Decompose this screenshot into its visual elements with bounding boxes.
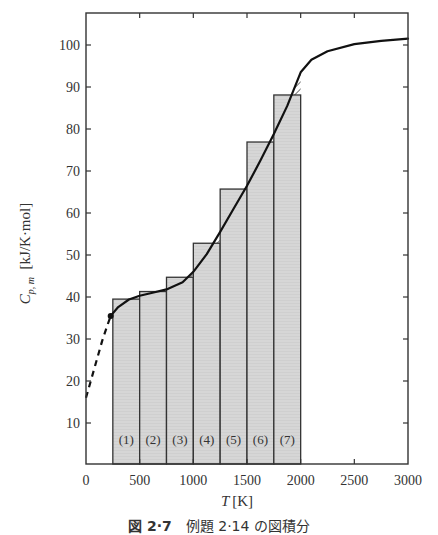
y-axis-title: Cp, m [kJ/K·mol] bbox=[17, 203, 36, 304]
integration-bar bbox=[193, 243, 220, 464]
y-tick-label: 30 bbox=[66, 332, 80, 347]
y-tick-label: 80 bbox=[66, 122, 80, 137]
bar-label: (1) bbox=[119, 432, 134, 447]
y-tick-label: 60 bbox=[66, 206, 80, 221]
integration-bars bbox=[113, 95, 301, 464]
figure-caption: 図 2·7例題 2·14 の図積分 bbox=[0, 515, 438, 535]
bar-label: (6) bbox=[253, 432, 268, 447]
bar-label: (3) bbox=[172, 432, 187, 447]
x-tick-label: 1500 bbox=[233, 473, 261, 488]
chart-figure: 1020304050607080901000500100015002000250… bbox=[0, 0, 438, 510]
integration-bar bbox=[274, 95, 301, 464]
figure-number: 図 2·7 bbox=[128, 518, 172, 534]
integration-bar bbox=[247, 142, 274, 464]
x-tick-label: 1000 bbox=[179, 473, 207, 488]
y-tick-label: 70 bbox=[66, 164, 80, 179]
y-tick-label: 50 bbox=[66, 248, 80, 263]
y-tick-label: 20 bbox=[66, 374, 80, 389]
curve-dashed-extrapolation bbox=[86, 316, 111, 398]
bar-label: (2) bbox=[145, 432, 160, 447]
bar-label: (7) bbox=[280, 432, 295, 447]
integration-bar bbox=[220, 189, 247, 464]
x-tick-label: 2500 bbox=[340, 473, 368, 488]
y-tick-label: 40 bbox=[66, 290, 80, 305]
bar-label: (5) bbox=[226, 432, 241, 447]
bar-label: (4) bbox=[199, 432, 214, 447]
x-tick-label: 500 bbox=[129, 473, 150, 488]
y-tick-label: 90 bbox=[66, 80, 80, 95]
curve-marker-dot bbox=[108, 313, 114, 319]
x-axis-title: T [K] bbox=[221, 493, 253, 509]
y-tick-label: 10 bbox=[66, 416, 80, 431]
x-tick-label: 3000 bbox=[394, 473, 422, 488]
x-tick-label: 0 bbox=[83, 473, 90, 488]
x-tick-label: 2000 bbox=[287, 473, 315, 488]
figure-caption-text: 例題 2·14 の図積分 bbox=[186, 518, 310, 534]
y-tick-label: 100 bbox=[59, 38, 80, 53]
